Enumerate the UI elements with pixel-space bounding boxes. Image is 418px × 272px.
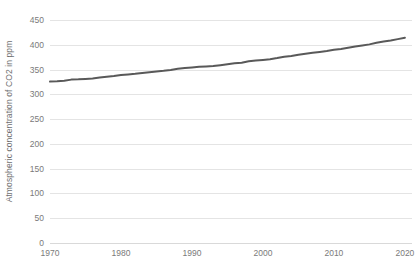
y-tick-label: 200 — [12, 139, 44, 149]
gridline — [50, 70, 412, 71]
x-tick-label: 1970 — [30, 248, 70, 258]
y-tick-label: 450 — [12, 15, 44, 25]
y-tick-label: 50 — [12, 213, 44, 223]
y-tick-label: 0 — [12, 238, 44, 248]
y-tick-label: 100 — [12, 188, 44, 198]
plot-area — [50, 20, 412, 243]
y-tick-label: 150 — [12, 164, 44, 174]
y-tick-label: 250 — [12, 114, 44, 124]
y-tick-label: 300 — [12, 89, 44, 99]
gridline — [50, 94, 412, 95]
x-tick-label: 2020 — [385, 248, 418, 258]
x-tick-label: 1980 — [101, 248, 141, 258]
gridline — [50, 169, 412, 170]
x-axis-line — [50, 243, 412, 244]
y-tick-label: 350 — [12, 65, 44, 75]
x-tick-label: 2010 — [314, 248, 354, 258]
x-tick-label: 1990 — [172, 248, 212, 258]
x-tick-label: 2000 — [243, 248, 283, 258]
co2-line-chart: Atmospheric concentration of CO2 in ppm … — [0, 0, 418, 272]
y-tick-label: 400 — [12, 40, 44, 50]
gridline — [50, 45, 412, 46]
gridline — [50, 193, 412, 194]
gridline — [50, 119, 412, 120]
gridline — [50, 20, 412, 21]
gridline — [50, 218, 412, 219]
gridline — [50, 144, 412, 145]
